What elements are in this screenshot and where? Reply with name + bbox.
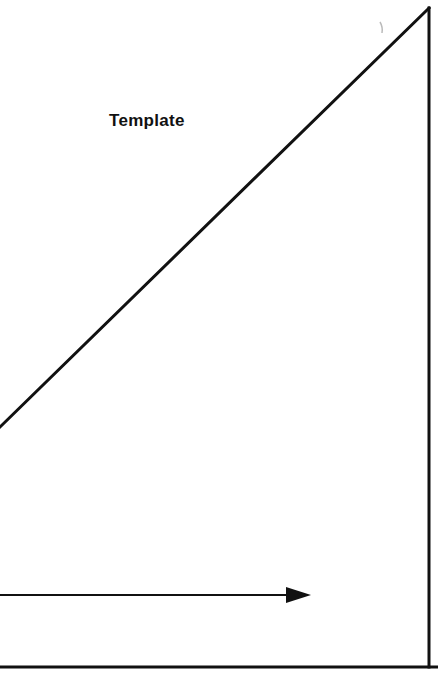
figure-canvas: Template xyxy=(0,0,438,689)
template-label: Template xyxy=(109,112,185,129)
line-drawing xyxy=(0,0,438,689)
page-background xyxy=(0,0,438,689)
